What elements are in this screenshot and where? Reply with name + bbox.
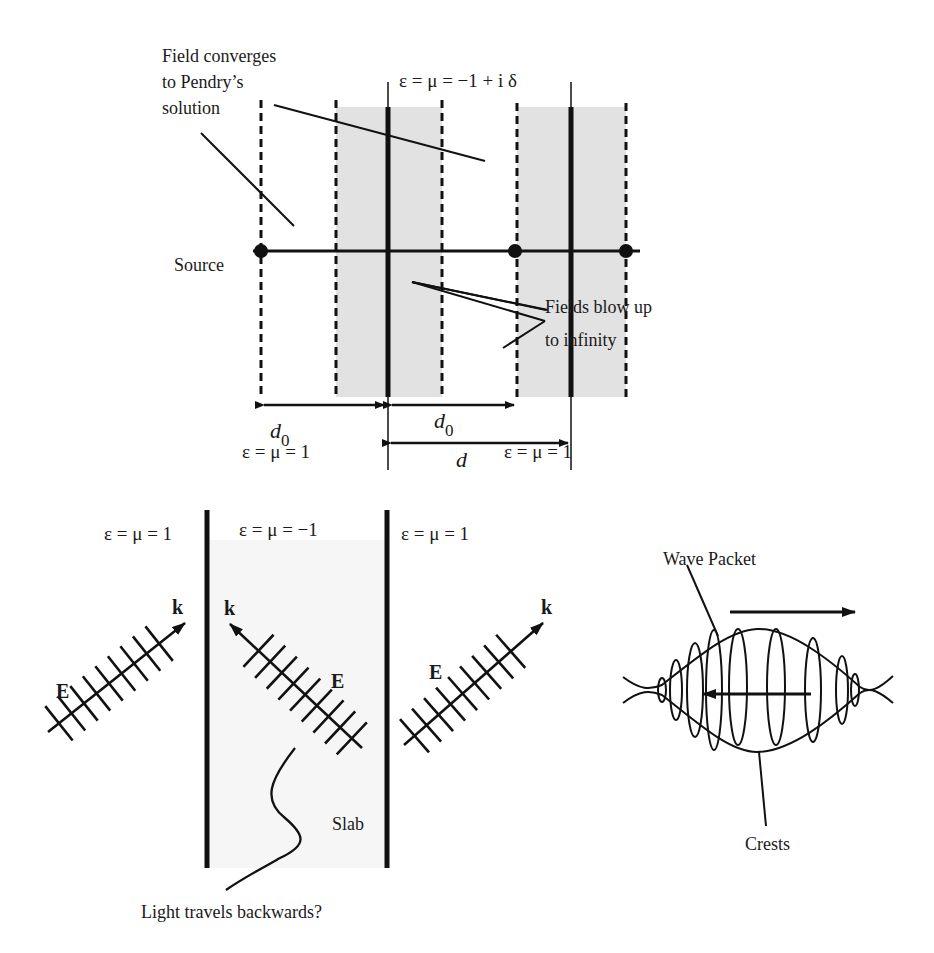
image-point-2 <box>619 244 633 258</box>
wave-packet-label: Wave Packet <box>663 549 756 569</box>
slab-material-label: ε = μ = −1 + i δ <box>399 70 517 91</box>
caption-label: Light travels backwards? <box>141 902 322 922</box>
e-label-middle: E <box>331 670 344 692</box>
crests-label: Crests <box>745 834 790 854</box>
region-right-label: ε = μ = 1 <box>401 523 469 544</box>
bottom-left-slab-panel: ε = μ = 1 ε = μ = −1 ε = μ = 1 k E <box>45 510 553 922</box>
transmitted-wave <box>400 623 543 752</box>
e-label-right: E <box>429 661 442 683</box>
top-panel-double-slab: Field converges to Pendry’s solution ε =… <box>162 46 657 472</box>
source-point <box>254 244 268 258</box>
vacuum-label-right: ε = μ = 1 <box>504 441 572 462</box>
k-label-middle: k <box>224 597 236 619</box>
d-label: d <box>456 447 468 472</box>
wave-packet-panel: Wave Packet Crests <box>623 549 893 854</box>
k-label-left: k <box>172 596 184 618</box>
e-label-left: E <box>56 680 69 702</box>
k-label-right: k <box>541 596 553 618</box>
vacuum-label-left: ε = μ = 1 <box>242 441 310 462</box>
d0-label-right: d0 <box>434 408 454 440</box>
crests-leader <box>759 752 766 826</box>
metamaterial-diagram: Field converges to Pendry’s solution ε =… <box>0 0 934 953</box>
converges-label: Field converges to Pendry’s solution <box>162 46 281 118</box>
source-label: Source <box>174 255 224 275</box>
region-left-label: ε = μ = 1 <box>104 523 172 544</box>
converges-leader-2 <box>201 133 294 226</box>
carrier-wave <box>658 629 859 750</box>
region-middle-label: ε = μ = −1 <box>239 519 318 540</box>
wave-packet-leader <box>687 565 718 636</box>
image-point-1 <box>508 244 522 258</box>
slab-label: Slab <box>332 814 364 834</box>
